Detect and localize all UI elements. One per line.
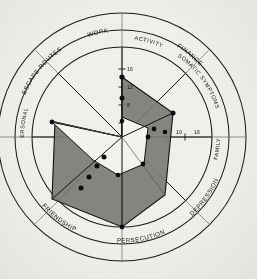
tick-label-16-horizontal: 16: [194, 129, 200, 135]
radar-chart-figure: 16 12 8 10 16 WORK FINANCE ESCAPE: [0, 0, 257, 279]
tick-label-16-vertical: 16: [127, 66, 133, 72]
tick-label-8-vertical: 8: [127, 102, 130, 108]
radar-chart-svg: 16 12 8 10 16 WORK FINANCE ESCAPE: [0, 0, 257, 279]
tick-label-10-horizontal: 10: [176, 129, 182, 135]
tick-label-12-vertical: 12: [127, 84, 133, 90]
